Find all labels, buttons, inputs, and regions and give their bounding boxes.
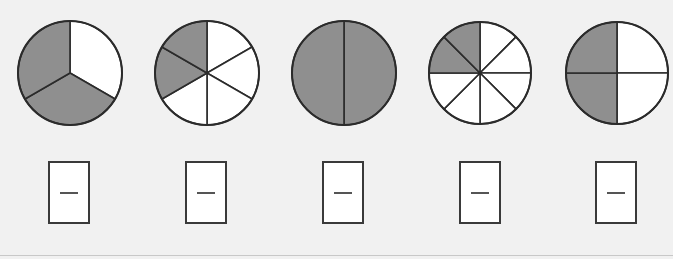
fraction-circle-5 xyxy=(563,19,671,127)
fraction-bar xyxy=(334,192,352,194)
shaded-sector xyxy=(344,21,396,125)
fraction-answer-box-2[interactable] xyxy=(185,161,227,224)
fraction-answer-box-3[interactable] xyxy=(322,161,364,224)
fraction-answer-box-5[interactable] xyxy=(595,161,637,224)
shaded-sector xyxy=(292,21,344,125)
fraction-answer-box-4[interactable] xyxy=(459,161,501,224)
fraction-bar xyxy=(197,192,215,194)
fraction-bar xyxy=(471,192,489,194)
fraction-circle-3 xyxy=(289,18,399,128)
fraction-circle-2 xyxy=(152,18,262,128)
fraction-bar xyxy=(60,192,78,194)
fraction-circle-1 xyxy=(15,18,125,128)
fraction-bar xyxy=(607,192,625,194)
bottom-divider xyxy=(0,255,673,256)
fraction-circle-4 xyxy=(426,19,534,127)
fraction-answer-box-1[interactable] xyxy=(48,161,90,224)
